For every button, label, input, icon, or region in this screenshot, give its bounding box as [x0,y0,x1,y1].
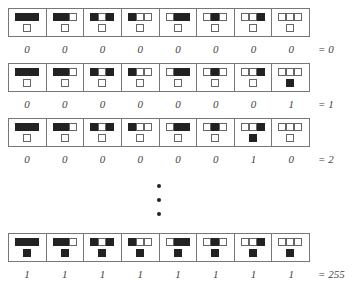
rule-row [8,8,310,37]
neighbor-square [241,238,249,246]
neighbor-square [31,68,39,76]
neighbor-square [136,13,144,21]
neighbor-square [98,13,106,21]
rule-cell-110 [47,119,85,146]
neighbor-square [61,68,69,76]
neighbor-square [144,68,152,76]
neighbor-square [286,238,294,246]
neighbor-square [278,13,286,21]
bit-label: 0 [84,98,122,110]
bit-label: 1 [84,268,122,280]
neighbor-square [166,68,174,76]
bit-label: 0 [46,153,84,165]
neighbor-square [286,68,294,76]
bit-label: 1 [272,268,310,280]
neighbor-square [219,238,227,246]
neighbor-square [211,13,219,21]
bit-label: 0 [159,43,197,55]
neighbor-square [241,123,249,131]
rule-cell-000 [272,119,309,146]
output-square [98,134,106,142]
ellipsis-dot [157,198,161,202]
neighbor-square [286,13,294,21]
neighbor-square [166,13,174,21]
output-square [23,249,31,257]
neighbor-square [53,238,61,246]
neighbor-square [90,68,98,76]
rule-cell-000 [272,64,309,91]
rule-cell-111 [9,234,47,261]
neighbor-square [286,123,294,131]
rule-number: = 2 [318,153,334,165]
neighbor-square [278,68,286,76]
rule-cell-110 [47,64,85,91]
neighbor-square [61,123,69,131]
rule-cell-011 [160,119,198,146]
bit-label: 1 [197,268,235,280]
neighbor-square [166,123,174,131]
neighbor-square [249,238,257,246]
neighbor-square [144,13,152,21]
neighbor-square [241,68,249,76]
rule-number: = 1 [318,98,334,110]
neighbor-square [128,13,136,21]
output-square [249,24,257,32]
rule-cell-011 [160,64,198,91]
bit-label: 0 [8,43,46,55]
neighbor-square [294,238,302,246]
neighbor-square [98,123,106,131]
rule-row [8,63,310,92]
neighbor-square [90,123,98,131]
neighbor-square [249,68,257,76]
neighbor-square [31,238,39,246]
neighbor-square [219,123,227,131]
neighbor-square [23,68,31,76]
neighbor-square [128,123,136,131]
rule-cell-100 [122,119,160,146]
output-square [211,79,219,87]
rule-cell-111 [9,119,47,146]
bit-label: 1 [121,268,159,280]
rule-cell-101 [84,9,122,36]
neighbor-square [23,123,31,131]
output-square [61,249,69,257]
neighbor-square [182,13,190,21]
neighbor-square [249,13,257,21]
bit-label: 0 [46,43,84,55]
output-square [23,24,31,32]
neighbor-square [15,13,23,21]
neighbor-square [136,68,144,76]
ellipsis-dot [157,184,161,188]
output-square [136,24,144,32]
neighbor-square [15,123,23,131]
rule-cell-011 [160,9,198,36]
rule-cell-001 [235,234,273,261]
neighbor-square [241,13,249,21]
rule-cell-100 [122,64,160,91]
rule-cell-110 [47,234,85,261]
neighbor-square [211,68,219,76]
bit-label: 0 [272,43,310,55]
output-square [174,249,182,257]
bit-label: 0 [84,153,122,165]
rule-row [8,118,310,147]
neighbor-square [249,123,257,131]
output-square [286,79,294,87]
bit-label: 0 [84,43,122,55]
bit-label: 1 [235,268,273,280]
bit-label: 0 [159,153,197,165]
neighbor-square [294,68,302,76]
neighbor-square [257,13,265,21]
rule-cell-000 [272,234,309,261]
neighbor-square [31,13,39,21]
neighbor-square [23,13,31,21]
bit-label: 0 [121,98,159,110]
neighbor-square [182,238,190,246]
bit-label: 0 [235,98,273,110]
bit-label: 0 [46,98,84,110]
bit-label: 1 [235,153,273,165]
rule-cell-111 [9,64,47,91]
output-square [136,249,144,257]
neighbor-square [174,238,182,246]
rule-number: = 255 [318,268,345,280]
